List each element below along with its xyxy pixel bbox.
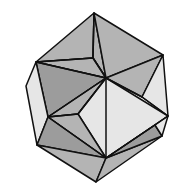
polyhedron-diagram xyxy=(0,0,182,192)
top-left-face xyxy=(36,13,94,62)
edge-line xyxy=(93,13,94,58)
polyhedron-faces xyxy=(26,13,168,182)
polyhedron-figure xyxy=(0,0,182,192)
